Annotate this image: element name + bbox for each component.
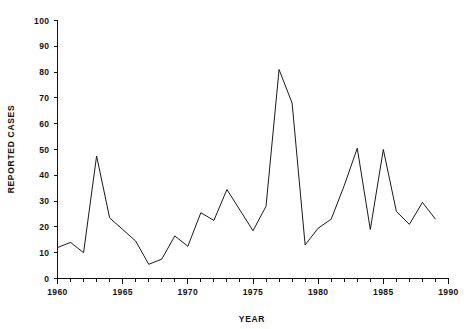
- x-axis-tick-label: 1960: [47, 287, 68, 297]
- y-axis-tick-label: 90: [39, 41, 49, 51]
- y-axis-tick-label: 100: [34, 16, 49, 26]
- y-axis-tick-label: 70: [39, 93, 49, 103]
- x-axis-tick-label: 1970: [178, 287, 199, 297]
- x-axis-tick-label: 1985: [373, 287, 394, 297]
- y-axis-tick-label: 20: [39, 222, 49, 232]
- x-axis-tick-label: 1980: [308, 287, 329, 297]
- x-axis-title: YEAR: [239, 314, 265, 324]
- x-axis-tick-label: 1975: [243, 287, 264, 297]
- y-axis-title: REPORTED CASES: [6, 105, 16, 194]
- y-axis-tick-label: 0: [44, 274, 49, 284]
- y-axis-tick-label: 80: [39, 67, 49, 77]
- x-axis-tick-label: 1965: [112, 287, 133, 297]
- chart-canvas: 0102030405060708090100 19601965197019751…: [0, 0, 473, 329]
- y-axis-tick-label: 30: [39, 196, 49, 206]
- y-axis-tick-label: 10: [39, 248, 49, 258]
- y-axis: 0102030405060708090100: [34, 16, 57, 284]
- y-axis-tick-label: 40: [39, 170, 49, 180]
- x-axis-tick-label: 1990: [438, 287, 459, 297]
- y-axis-tick-label: 50: [39, 145, 49, 155]
- reported-cases-line-chart: 0102030405060708090100 19601965197019751…: [0, 0, 473, 329]
- y-axis-tick-label: 60: [39, 119, 49, 129]
- series-line-reported-cases: [58, 70, 436, 265]
- x-axis: 1960196519701975198019851990: [47, 279, 459, 297]
- data-series: [58, 70, 436, 265]
